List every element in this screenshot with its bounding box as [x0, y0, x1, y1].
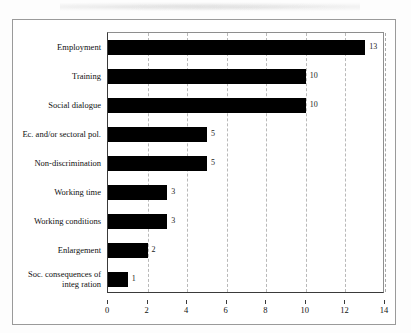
gridline: [385, 33, 386, 292]
bar: [108, 272, 128, 287]
x-axis-tick: [107, 300, 108, 304]
x-axis-tick-label: 8: [253, 305, 277, 315]
bar-value-label: 3: [171, 213, 175, 228]
bar-row: 13: [108, 33, 383, 62]
category-label: Soc. consequences of integ ration: [11, 269, 101, 289]
bar-value-label: 10: [310, 68, 318, 83]
x-axis-tick-label: 12: [332, 305, 356, 315]
category-label: Ec. and/or sectoral pol.: [11, 129, 101, 139]
category-label: Enlargement: [11, 245, 101, 255]
x-axis-tick: [186, 300, 187, 304]
page-background: 131010553321 EmploymentTrainingSocial di…: [0, 0, 411, 333]
x-axis-tick: [344, 300, 345, 304]
bar-value-label: 5: [211, 126, 215, 141]
bar-row: 3: [108, 178, 383, 207]
bar: [108, 243, 148, 258]
x-axis-tick-label: 4: [174, 305, 198, 315]
bar-value-label: 13: [369, 39, 377, 54]
bar-row: 2: [108, 236, 383, 265]
bar: [108, 40, 365, 55]
x-axis-tick-label: 2: [135, 305, 159, 315]
bar-row: 3: [108, 207, 383, 236]
chart-frame: 131010553321 EmploymentTrainingSocial di…: [12, 19, 396, 325]
x-axis-tick: [226, 300, 227, 304]
category-label: Working conditions: [11, 216, 101, 226]
x-axis-tick-label: 0: [95, 305, 119, 315]
bar: [108, 156, 207, 171]
x-axis-tick: [384, 300, 385, 304]
bar-value-label: 2: [152, 242, 156, 257]
bar-value-label: 1: [132, 271, 136, 286]
x-axis-tick-label: 10: [293, 305, 317, 315]
bar: [108, 98, 306, 113]
bar-row: 5: [108, 149, 383, 178]
category-label: Employment: [11, 42, 101, 52]
bar: [108, 185, 167, 200]
bar: [108, 69, 306, 84]
scan-artifact: [60, 2, 360, 12]
x-axis-tick: [305, 300, 306, 304]
category-label: Social dialogue: [11, 100, 101, 110]
category-label: Training: [11, 71, 101, 81]
category-label: Working time: [11, 187, 101, 197]
bar-row: 5: [108, 120, 383, 149]
plot-area: 131010553321: [107, 32, 384, 293]
bar-row: 1: [108, 265, 383, 294]
x-axis-tick-label: 6: [214, 305, 238, 315]
bar: [108, 127, 207, 142]
x-axis-tick-label: 14: [372, 305, 396, 315]
bar: [108, 214, 167, 229]
category-label: Non-discrimination: [11, 158, 101, 168]
bar-row: 10: [108, 91, 383, 120]
bar-value-label: 10: [310, 97, 318, 112]
x-axis-tick: [147, 300, 148, 304]
bar-value-label: 5: [211, 155, 215, 170]
bar-value-label: 3: [171, 184, 175, 199]
bar-row: 10: [108, 62, 383, 91]
x-axis-tick: [265, 300, 266, 304]
